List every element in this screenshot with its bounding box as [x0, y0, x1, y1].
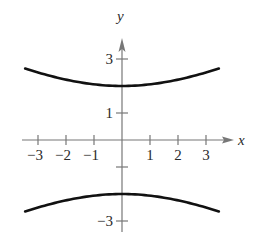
x-tick-label: 3 — [202, 147, 210, 163]
x-tick-label: −3 — [27, 147, 43, 163]
x-tick-label: −1 — [83, 147, 99, 163]
y-axis: 31−3 — [97, 38, 128, 232]
y-tick-label: 3 — [106, 51, 114, 67]
hyperbola-chart: −3−2−1123 31−3 x y — [0, 0, 264, 250]
x-axis-label: x — [237, 132, 245, 148]
x-tick-label: 2 — [174, 147, 182, 163]
x-tick-label: −2 — [55, 147, 71, 163]
y-tick-label: 1 — [106, 105, 114, 121]
x-tick-label: 1 — [146, 147, 154, 163]
y-tick-label: −3 — [97, 213, 113, 229]
x-axis: −3−2−1123 — [22, 135, 234, 163]
y-axis-label: y — [115, 8, 124, 24]
